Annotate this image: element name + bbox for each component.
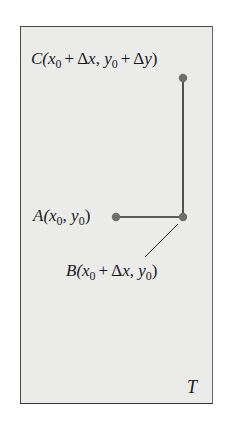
point-a-label: A(x0, y0) [33,207,90,224]
point-a-y: y [71,206,79,225]
point-a-x: x [49,206,57,225]
point-b-dot [179,213,187,221]
point-b-y: y [138,261,146,280]
point-c-x: x [48,49,56,68]
point-c-dy: Δy [133,49,151,68]
point-c-y-sub: 0 [112,57,118,71]
point-a-sep: , [63,206,72,225]
region-label-t: T [187,378,197,396]
point-b-sep: , [130,261,139,280]
point-b-plus: + [99,261,109,280]
point-c-plus-1: + [65,49,75,68]
point-c-plus-2: + [121,49,131,68]
point-a-name: A( [33,206,49,225]
point-c-close: ) [152,49,158,68]
point-c-dx: Δx [77,49,95,68]
point-b-x: x [82,261,90,280]
point-c-name: C( [31,49,48,68]
point-c-label: C(x0+Δx, y0+Δy) [31,50,157,67]
point-c-y: y [104,49,112,68]
point-c-sep: , [96,49,105,68]
point-b-x-sub: 0 [90,269,96,283]
point-b-close: ) [152,261,158,280]
point-b-label: B(x0+Δx, y0) [66,262,157,279]
point-b-dx: Δx [111,261,129,280]
point-a-close: ) [85,206,91,225]
point-a-dot [112,213,120,221]
point-b-name: B( [66,261,82,280]
point-c-x-sub: 0 [56,57,62,71]
leader-line-b [145,224,178,257]
point-c-dot [179,74,187,82]
